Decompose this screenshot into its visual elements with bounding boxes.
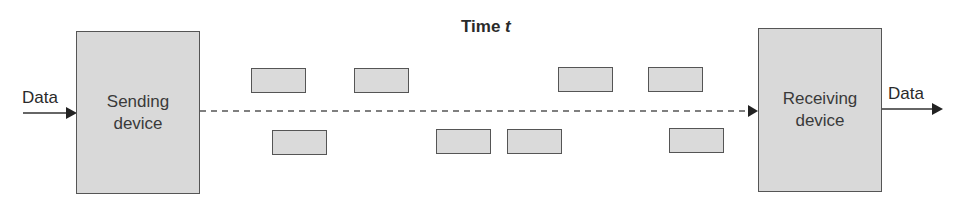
packet-bottom-3 — [507, 129, 562, 154]
output-arrowhead-icon — [932, 103, 943, 115]
packet-bottom-4 — [669, 128, 724, 153]
packet-top-3 — [558, 67, 613, 92]
output-data-label: Data — [888, 84, 924, 104]
input-data-label: Data — [22, 88, 58, 108]
sending-device-box: Sending device — [76, 31, 200, 194]
time-variable: t — [505, 17, 511, 36]
packet-bottom-2 — [436, 129, 491, 154]
time-axis-title: Time t — [461, 17, 511, 37]
packet-top-1 — [251, 68, 306, 93]
transmission-arrowhead-icon — [748, 105, 758, 117]
receiving-device-box: Receiving device — [758, 28, 882, 192]
sending-device-label: Sending device — [107, 91, 169, 135]
packet-top-2 — [354, 68, 409, 93]
packet-top-4 — [648, 67, 703, 92]
time-title-text: Time — [461, 17, 500, 36]
packet-bottom-1 — [272, 130, 327, 155]
receiving-device-line1: Receiving — [783, 88, 858, 110]
receiving-device-label: Receiving device — [783, 88, 858, 132]
sending-device-line1: Sending — [107, 91, 169, 113]
receiving-device-line2: device — [783, 110, 858, 132]
sending-device-line2: device — [107, 113, 169, 135]
